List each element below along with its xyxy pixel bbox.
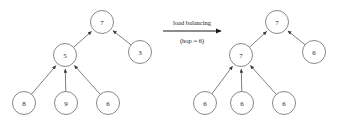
node-label: 9 — [64, 100, 68, 108]
tree-edge — [288, 31, 305, 45]
node-label: 6 — [312, 49, 316, 57]
tree-node: 6 — [97, 92, 120, 115]
node-label: 6 — [203, 100, 207, 108]
tree-node: 6 — [231, 92, 254, 115]
tree-node: 6 — [273, 92, 296, 115]
tree-node: 7 — [230, 44, 253, 67]
tree-node: 7 — [266, 11, 289, 34]
node-label: 5 — [63, 52, 67, 60]
figure-canvas: 753896 776666 load balancing (hop = 6) — [0, 0, 339, 126]
tree-edge — [212, 66, 233, 94]
transform-annotation: load balancing (hop = 6) — [163, 19, 221, 45]
node-label: 7 — [100, 19, 104, 27]
tree-edge — [74, 65, 100, 94]
node-label: 7 — [239, 52, 243, 60]
tree-edge — [31, 66, 55, 95]
tree-node: 6 — [194, 92, 217, 115]
load-balancing-label: load balancing — [173, 19, 212, 26]
tree-node: 5 — [54, 44, 77, 67]
tree-edge — [113, 31, 131, 45]
node-label: 6 — [282, 100, 286, 108]
tree-node: 3 — [129, 41, 152, 64]
tree-diagram: 753896 776666 load balancing (hop = 6) — [0, 0, 339, 126]
tree-node: 9 — [55, 92, 78, 115]
left-tree-nodes: 753896 — [13, 11, 152, 115]
node-label: 6 — [106, 100, 110, 108]
tree-edge — [74, 31, 92, 47]
left-tree-edges — [31, 31, 131, 95]
tree-node: 7 — [91, 11, 114, 34]
node-label: 8 — [22, 100, 26, 108]
tree-node: 8 — [13, 92, 36, 115]
tree-edge — [250, 65, 276, 94]
hop-value-label: (hop = 6) — [180, 37, 204, 45]
tree-edge — [249, 31, 266, 47]
node-label: 7 — [275, 19, 279, 27]
right-tree-edges — [212, 31, 305, 95]
node-label: 3 — [138, 49, 142, 57]
tree-node: 6 — [303, 41, 326, 64]
right-tree-nodes: 776666 — [194, 11, 326, 115]
node-label: 6 — [240, 100, 244, 108]
